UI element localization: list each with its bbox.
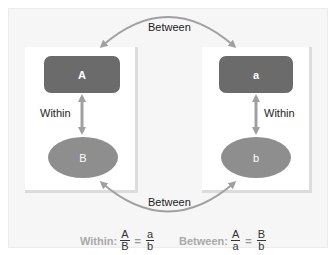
equals-sign: = bbox=[245, 235, 251, 247]
fraction-A-over-a: A a bbox=[231, 229, 240, 252]
between-label-top: Between bbox=[148, 21, 191, 33]
denominator: a bbox=[233, 241, 239, 252]
node-A-label: A bbox=[78, 69, 86, 81]
node-a-label: a bbox=[253, 69, 259, 81]
between-formula-label: Between: bbox=[179, 235, 228, 247]
node-B-label: B bbox=[79, 152, 86, 164]
within-label-left: Within bbox=[40, 107, 71, 119]
within-formula: Within: A B = a b bbox=[80, 229, 154, 252]
node-b: b bbox=[221, 137, 291, 178]
node-b-label: b bbox=[253, 152, 259, 164]
relation-arrows bbox=[0, 0, 336, 255]
denominator: b bbox=[147, 241, 153, 252]
equals-sign: = bbox=[135, 235, 141, 247]
fraction-A-over-B: A B bbox=[120, 229, 129, 252]
between-formula: Between: A a = B b bbox=[179, 229, 266, 252]
node-a: a bbox=[219, 56, 293, 93]
node-B: B bbox=[48, 137, 118, 178]
within-formula-label: Within: bbox=[80, 235, 117, 247]
within-label-right: Within bbox=[264, 107, 295, 119]
denominator: b bbox=[258, 241, 264, 252]
denominator: B bbox=[121, 241, 128, 252]
fraction-B-over-b: B b bbox=[257, 229, 266, 252]
node-A: A bbox=[44, 56, 120, 93]
fraction-a-over-b: a b bbox=[146, 229, 154, 252]
between-label-bottom: Between bbox=[148, 196, 191, 208]
